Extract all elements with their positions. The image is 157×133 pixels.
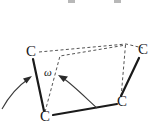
clip-artifact-left — [68, 0, 75, 3]
arrow-left-curve — [2, 79, 29, 110]
torsion-angle-svg: C C C C ω — [0, 0, 157, 133]
plane-front-outline — [45, 45, 126, 112]
bond-c1-c2 — [33, 59, 44, 111]
arrow-right-curve — [63, 78, 97, 108]
torsion-angle-figure: C C C C ω — [0, 0, 157, 133]
plane-rear-outline — [39, 44, 143, 52]
atom-labels: C C C C — [26, 41, 148, 124]
bond-c2-c3 — [53, 104, 117, 115]
top-clip-artifacts — [68, 0, 121, 3]
atom-label-c-top-right: C — [138, 41, 148, 57]
atom-label-c-bottom-left: C — [40, 108, 50, 124]
atom-label-c-bottom-right: C — [117, 93, 127, 109]
clip-artifact-right — [114, 0, 121, 3]
atom-label-c-top-left: C — [26, 43, 36, 59]
omega-angle-label: ω — [44, 66, 52, 78]
indicator-arrows — [2, 75, 97, 109]
